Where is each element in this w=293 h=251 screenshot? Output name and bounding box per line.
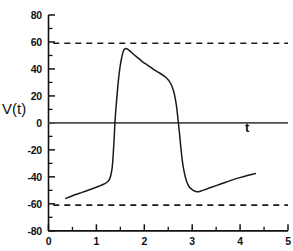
x-tick-label-5: 5 xyxy=(276,236,293,247)
y-tick-label-40: 40 xyxy=(8,64,42,75)
y-tick-label-neg60: -60 xyxy=(8,199,42,210)
x-tick-label-4: 4 xyxy=(228,236,252,247)
y-tick-label-0: 0 xyxy=(8,118,42,129)
y-axis-title: V(t) xyxy=(2,101,26,116)
x-tick-label-1: 1 xyxy=(84,236,108,247)
y-tick-label-80: 80 xyxy=(8,10,42,21)
chart-container: V(t) t -80-60-40-20020406080 012345 xyxy=(0,0,293,251)
x-tick-label-3: 3 xyxy=(180,236,204,247)
y-tick-label-20: 20 xyxy=(8,91,42,102)
y-tick-label-neg20: -20 xyxy=(8,145,42,156)
y-tick-label-60: 60 xyxy=(8,37,42,48)
y-tick-label-neg40: -40 xyxy=(8,172,42,183)
x-axis-title: t xyxy=(245,121,249,134)
x-tick-label-0: 0 xyxy=(37,236,61,247)
x-tick-label-2: 2 xyxy=(132,236,156,247)
y-tick-label-neg80: -80 xyxy=(8,226,42,237)
